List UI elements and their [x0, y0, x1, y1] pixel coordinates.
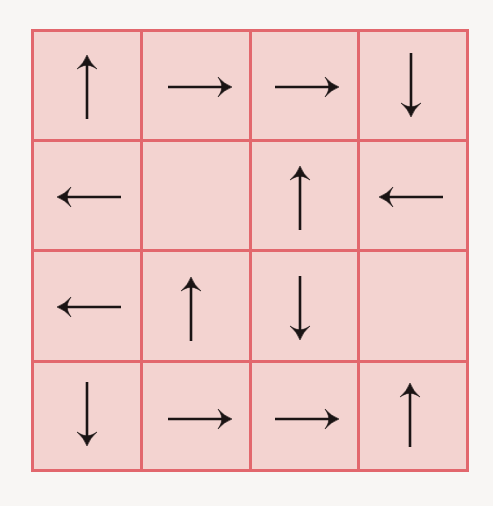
grid-cell-r0-c0: [32, 30, 141, 140]
grid-cell-r1-c0: [32, 140, 141, 250]
grid-cell-r0-c2: [250, 30, 358, 140]
grid-cell-r3-c3: [358, 361, 468, 471]
grid-cell-r2-c3: [358, 250, 468, 361]
grid-cell-r0-c1: [141, 30, 250, 140]
grid-cell-r3-c2: [250, 361, 358, 471]
grid-cell-r1-c2: [250, 140, 358, 250]
grid-cell-r3-c0: [32, 361, 141, 471]
grid-cell-r3-c1: [141, 361, 250, 471]
grid-cell-r2-c0: [32, 250, 141, 361]
grid-cell-r1-c1: [141, 140, 250, 250]
grid-cell-r0-c3: [358, 30, 468, 140]
grid-cell-r2-c1: [141, 250, 250, 361]
grid-cell-r2-c2: [250, 250, 358, 361]
grid-cell-r1-c3: [358, 140, 468, 250]
